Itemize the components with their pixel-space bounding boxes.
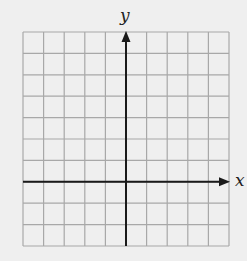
x-axis-label: x xyxy=(235,172,245,189)
y-axis-arrow-icon xyxy=(122,31,131,42)
x-axis-arrow-icon xyxy=(219,177,230,186)
y-axis-label: y xyxy=(120,7,130,24)
coordinate-plane: y x xyxy=(0,0,247,261)
grid xyxy=(0,0,247,261)
